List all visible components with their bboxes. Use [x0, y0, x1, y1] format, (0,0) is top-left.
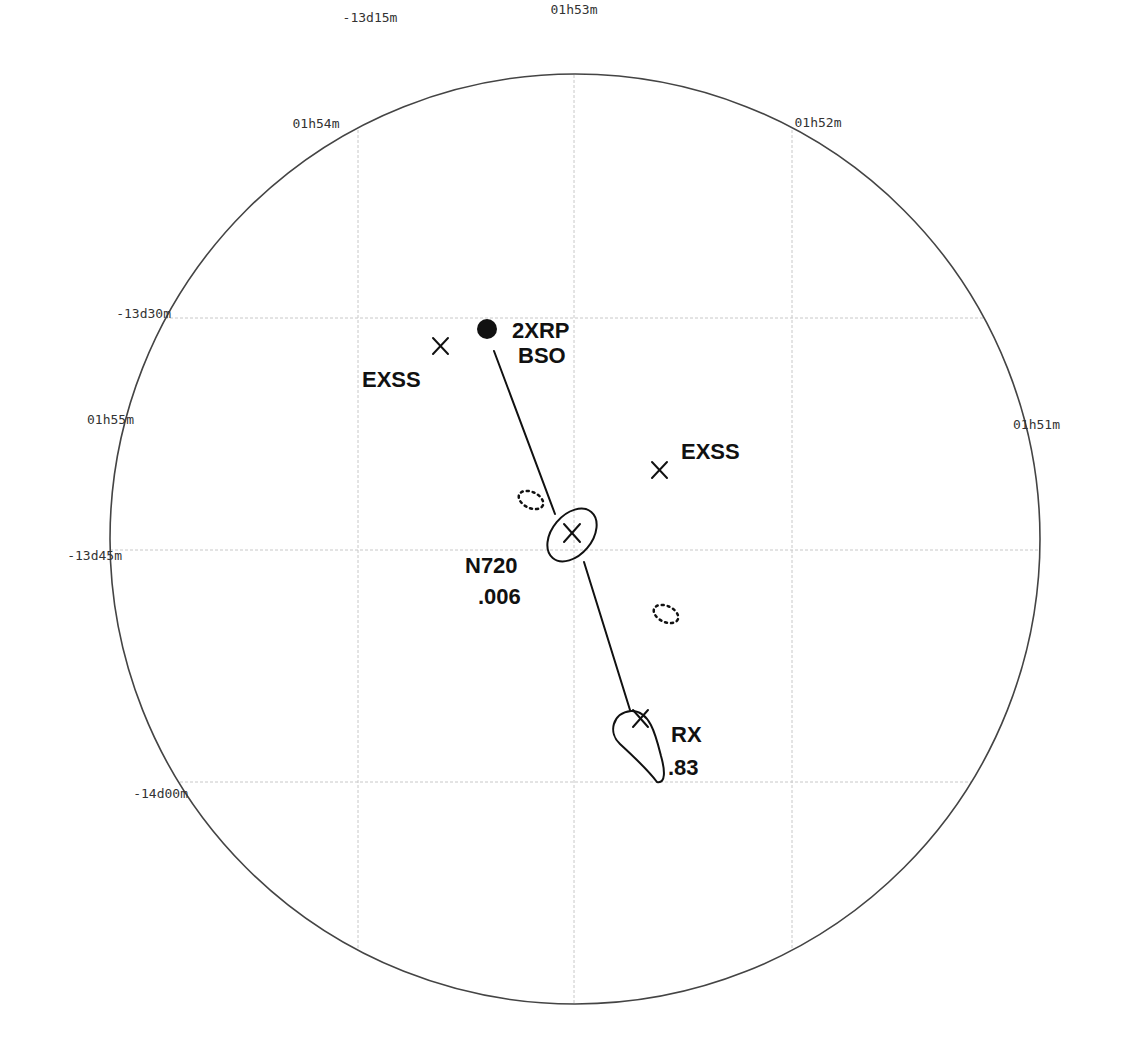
cross-icon	[652, 462, 667, 478]
dec-label-13d45m: -13d45m	[67, 548, 122, 563]
connector-n720-to-rx	[584, 562, 630, 710]
cross-icon	[564, 524, 580, 542]
finding-chart: -13d15m 01h53m 01h54m 01h52m -13d30m 01h…	[0, 0, 1122, 1043]
source-2xrp-bso[interactable]: 2XRP BSO	[477, 318, 569, 368]
source-exss-left[interactable]: EXSS	[362, 338, 448, 392]
dec-label-13d30m: -13d30m	[116, 306, 171, 321]
source-rx[interactable]: RX .83	[613, 710, 702, 782]
source-label-rx: RX	[671, 722, 702, 747]
source-label-n720-value: .006	[478, 584, 521, 609]
source-label-exss-left: EXSS	[362, 367, 421, 392]
ra-label-01h55m: 01h55m	[87, 412, 134, 427]
ra-label-01h52m: 01h52m	[795, 115, 842, 130]
dec-label-13d15m: -13d15m	[343, 10, 398, 25]
source-label-bso: BSO	[518, 343, 566, 368]
source-label-2xrp: 2XRP	[512, 318, 569, 343]
source-label-exss-right: EXSS	[681, 439, 740, 464]
connector-bso-to-n720	[494, 351, 555, 514]
dotted-error-ellipse-1	[516, 487, 546, 512]
error-ellipse-n720	[537, 499, 606, 571]
source-label-rx-value: .83	[668, 755, 699, 780]
coordinate-grid	[0, 0, 1122, 1043]
ra-label-01h53m: 01h53m	[551, 2, 598, 17]
ra-label-01h54m: 01h54m	[293, 116, 340, 131]
source-exss-right[interactable]: EXSS	[652, 439, 740, 478]
ra-label-01h51m: 01h51m	[1013, 417, 1060, 432]
dotted-error-ellipse-2	[651, 601, 681, 626]
source-n720[interactable]: N720 .006	[465, 499, 607, 609]
source-label-n720: N720	[465, 553, 518, 578]
filled-dot-icon	[477, 319, 497, 339]
field-of-view-circle	[110, 74, 1040, 1004]
cross-icon	[433, 338, 448, 354]
dec-label-14d00m: -14d00m	[133, 786, 188, 801]
